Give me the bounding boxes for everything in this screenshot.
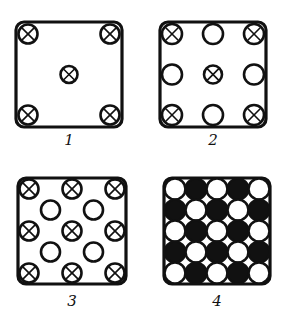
filled-circle	[228, 221, 249, 242]
open-circle	[84, 201, 103, 220]
panel-label: 1	[64, 131, 74, 149]
open-circle	[41, 243, 60, 262]
filled-circle	[186, 221, 207, 242]
filled-circle	[207, 242, 228, 263]
open-circle	[203, 24, 223, 44]
crossed-circle	[244, 24, 264, 44]
open-circle	[207, 221, 228, 242]
open-circle	[207, 179, 228, 200]
open-circle	[186, 200, 207, 221]
open-circle	[165, 179, 186, 200]
panel-3: 3	[18, 178, 126, 310]
filled-circle	[186, 263, 207, 284]
open-circle	[249, 221, 270, 242]
panel-1: 1	[16, 22, 122, 149]
open-circle	[41, 201, 60, 220]
crossed-circle	[101, 106, 120, 125]
crossed-circle	[19, 25, 38, 44]
filled-circle	[207, 200, 228, 221]
packing-figure: 1 2 3 4	[0, 0, 290, 329]
filled-circle	[228, 179, 249, 200]
open-circle	[165, 221, 186, 242]
open-circle	[228, 200, 249, 221]
crossed-circle	[20, 264, 39, 283]
panel-4: 4	[164, 178, 270, 310]
filled-circle	[165, 242, 186, 263]
crossed-circle	[19, 106, 38, 125]
filled-circle	[249, 242, 270, 263]
panel-label: 3	[67, 292, 77, 310]
crossed-circle	[106, 180, 125, 199]
filled-circle	[249, 200, 270, 221]
filled-circle	[186, 179, 207, 200]
crossed-circle	[244, 105, 264, 125]
crossed-circle	[101, 25, 120, 44]
crossed-circle	[162, 105, 182, 125]
open-circle	[244, 65, 264, 85]
crossed-circle	[20, 222, 39, 241]
crossed-circle	[106, 222, 125, 241]
crossed-circle	[20, 180, 39, 199]
open-circle	[165, 263, 186, 284]
filled-circle	[165, 200, 186, 221]
panel-label: 4	[211, 292, 222, 310]
crossed-circle	[61, 66, 78, 83]
panel-2: 2	[160, 22, 266, 149]
crossed-circle	[63, 264, 82, 283]
open-circle	[228, 242, 249, 263]
panel-label: 2	[207, 131, 218, 149]
open-circle	[207, 263, 228, 284]
crossed-circle	[63, 180, 82, 199]
open-circle	[249, 263, 270, 284]
open-circle	[203, 105, 223, 125]
crossed-circle	[63, 222, 82, 241]
crossed-circle	[204, 66, 222, 84]
crossed-circle	[162, 24, 182, 44]
open-circle	[186, 242, 207, 263]
filled-circle	[228, 263, 249, 284]
crossed-circle	[106, 264, 125, 283]
open-circle	[84, 243, 103, 262]
open-circle	[162, 65, 182, 85]
open-circle	[249, 179, 270, 200]
